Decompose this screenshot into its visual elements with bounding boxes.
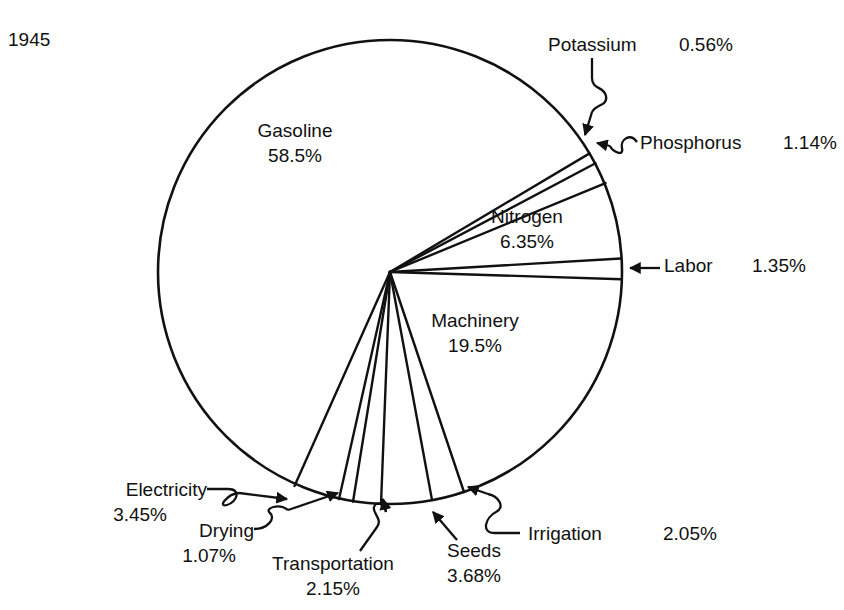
slice-label-electricity-pct: 3.45%	[57, 502, 207, 527]
slice-label-irrigation-name: Irrigation	[528, 522, 602, 545]
leader-drying-squiggle	[254, 507, 288, 529]
pie-chart-figure: 1945 Gasoline 58.5% Nitrogen 6.35% Machi…	[0, 0, 844, 610]
leader-potassium-arrow	[585, 112, 592, 135]
leader-electricity-arrow	[239, 493, 287, 499]
leader-drying	[254, 493, 338, 529]
slice-label-machinery: Machinery 19.5%	[400, 308, 550, 358]
slice-label-drying-pct: 1.07%	[104, 543, 254, 568]
slice-label-phosphorus-name: Phosphorus	[640, 131, 741, 154]
slice-label-seeds: Seeds 3.68%	[424, 538, 524, 588]
slice-label-electricity-name: Electricity	[57, 477, 207, 502]
slice-label-nitrogen-name: Nitrogen	[467, 204, 587, 229]
slice-label-nitrogen-pct: 6.35%	[467, 229, 587, 254]
leader-seeds	[433, 512, 457, 540]
leader-transportation-squiggle	[360, 503, 386, 551]
slice-label-gasoline: Gasoline 58.5%	[225, 118, 365, 168]
leader-electricity	[207, 489, 287, 505]
slice-label-phosphorus-pct: 1.14%	[783, 131, 837, 154]
slice-label-nitrogen: Nitrogen 6.35%	[467, 204, 587, 254]
slice-label-potassium-pct: 0.56%	[679, 33, 733, 56]
leader-drying-arrow	[288, 493, 338, 510]
leader-transportation	[360, 499, 386, 551]
slice-label-seeds-pct: 3.68%	[424, 563, 524, 588]
divider-nitrogen-labor	[390, 259, 621, 273]
leader-potassium	[585, 58, 606, 135]
slice-label-transportation-name: Transportation	[243, 551, 423, 576]
slice-label-electricity: Electricity 3.45%	[57, 477, 207, 527]
leader-potassium-squiggle	[592, 58, 606, 112]
leader-electricity-squiggle	[207, 489, 239, 505]
slice-label-machinery-pct: 19.5%	[400, 333, 550, 358]
slice-label-machinery-name: Machinery	[400, 308, 550, 333]
leader-irrigation	[468, 487, 520, 533]
leader-phosphorus	[597, 137, 637, 153]
slice-label-gasoline-name: Gasoline	[225, 118, 365, 143]
leader-phosphorus-squiggle	[610, 137, 637, 153]
slice-label-seeds-name: Seeds	[424, 538, 524, 563]
divider-machinery-irrigation	[390, 272, 464, 492]
slice-label-irrigation-pct: 2.05%	[663, 522, 717, 545]
slice-label-potassium-name: Potassium	[548, 33, 637, 56]
slice-label-transportation: Transportation 2.15%	[243, 551, 423, 601]
slice-label-transportation-pct: 2.15%	[243, 576, 423, 601]
divider-irrigation-seeds	[390, 272, 432, 500]
leader-phosphorus-arrow	[597, 143, 610, 146]
slice-label-labor-pct: 1.35%	[752, 254, 806, 277]
leader-irrigation-squiggle	[486, 494, 520, 533]
leader-seeds-arrow	[433, 512, 457, 540]
divider-labor-machinery	[390, 272, 622, 279]
leader-transportation-arrow	[383, 499, 386, 512]
divider-electricity-gasoline	[295, 272, 391, 486]
slice-label-gasoline-pct: 58.5%	[225, 143, 365, 168]
slice-label-labor-name: Labor	[664, 254, 713, 277]
year-label: 1945	[8, 28, 50, 51]
